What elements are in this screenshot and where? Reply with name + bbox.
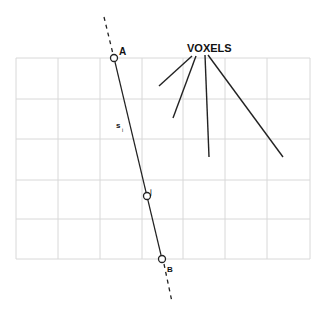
ray-segment	[115, 62, 161, 255]
point-b-marker	[159, 256, 166, 263]
voxel-ray-diagram: VOXELS A j B s i	[0, 0, 323, 316]
point-a-label: A	[119, 46, 126, 57]
voxel-pointer-lines	[159, 55, 283, 157]
point-a-marker	[111, 55, 118, 62]
segment-label-subscript: i	[122, 127, 123, 133]
voxels-label: VOXELS	[187, 42, 232, 54]
point-b-label: B	[167, 265, 173, 274]
voxel-grid	[16, 58, 310, 259]
ray-extension-top	[104, 17, 113, 54]
segment-label: s	[116, 121, 121, 130]
point-j-label: j	[149, 187, 152, 196]
